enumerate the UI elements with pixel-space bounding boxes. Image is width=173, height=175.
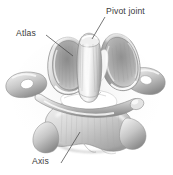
label-axis: Axis (32, 157, 49, 166)
dens-odontoid-process (77, 33, 102, 102)
pivot-joint-leader (92, 17, 105, 39)
label-pivot-joint: Pivot joint (106, 7, 145, 16)
label-atlas: Atlas (16, 29, 36, 38)
vertebrae-illustration (0, 0, 173, 175)
anatomy-figure: Pivot joint Atlas Axis (0, 0, 173, 175)
